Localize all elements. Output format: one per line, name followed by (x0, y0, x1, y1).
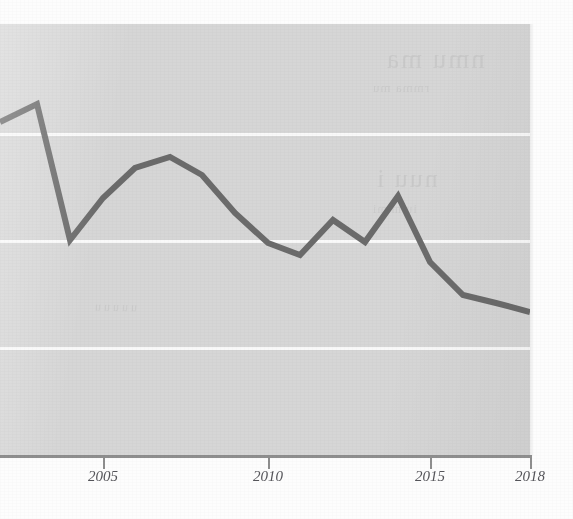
data-series-line (0, 24, 530, 456)
plot-area: nmu ma rmma mu nuu i iuim mi uuuuu (0, 24, 530, 456)
x-tick-label-2018: 2018 (515, 468, 545, 485)
page-edge-shadow (530, 24, 534, 456)
x-tick-label-2015: 2015 (415, 468, 445, 485)
x-tick-label-2005: 2005 (88, 468, 118, 485)
x-axis-line (0, 455, 532, 458)
scanned-page: nmu ma rmma mu nuu i iuim mi uuuuu 20052… (0, 0, 573, 519)
x-tick-label-2010: 2010 (253, 468, 283, 485)
